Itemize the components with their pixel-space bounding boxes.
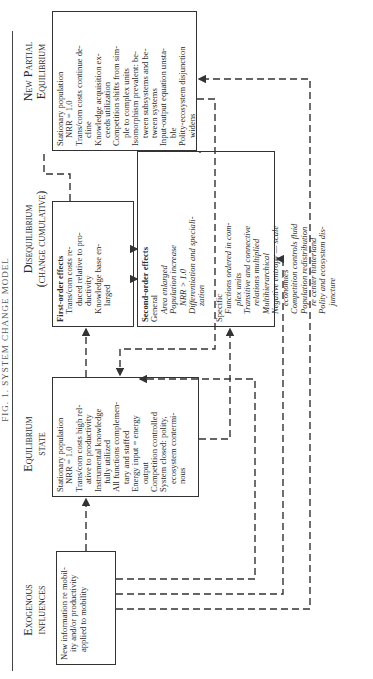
line-first-order-to-new-partial (44, 153, 70, 201)
arrow-exogenous-loop-3 (116, 79, 310, 609)
arrow-new-partial-feedback (120, 99, 215, 375)
arrow-exogenous-loop-2 (116, 259, 283, 594)
connector-lines (0, 0, 373, 679)
diagram-canvas: FIG. 1. SYSTEM CHANGE MODEL Exogenous in… (0, 0, 373, 679)
arrow-exogenous-loop-1 (116, 379, 255, 579)
